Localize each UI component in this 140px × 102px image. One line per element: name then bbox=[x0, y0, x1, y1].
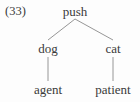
tree-node-cat: cat bbox=[105, 42, 120, 56]
tree-node-root: push bbox=[63, 5, 88, 19]
edge-push-dog bbox=[48, 19, 75, 40]
tree-node-dog: dog bbox=[38, 42, 58, 56]
tree-node-agent: agent bbox=[34, 83, 62, 97]
tree-node-patient: patient bbox=[95, 83, 130, 97]
edge-push-cat bbox=[75, 19, 113, 40]
tree-diagram-figure: (33) push dog cat agent patient bbox=[0, 0, 140, 102]
